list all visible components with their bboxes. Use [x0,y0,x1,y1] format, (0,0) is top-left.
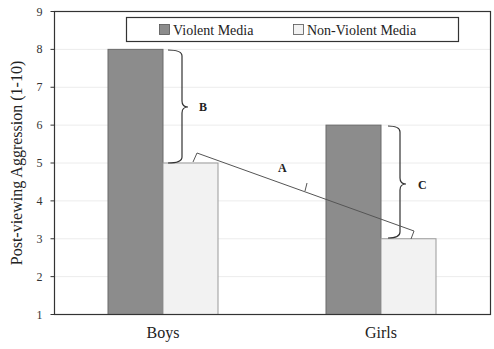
legend-swatch-nonviolent [294,25,304,35]
legend-swatch-violent [160,25,170,35]
y-tick-label: 9 [37,5,43,19]
x-category-label-boys: Boys [147,324,180,342]
y-tick-label: 8 [37,42,43,56]
x-category-label-girls: Girls [365,324,397,341]
y-tick-label: 1 [37,308,43,322]
bar-boys-nonviolent [163,163,218,315]
bar-boys-violent [108,49,163,314]
annotation-a-label: A [278,161,287,175]
annotation-b-label: B [199,100,207,114]
y-axis-ticks: 123456789 [37,5,55,322]
bar-chart: 123456789 Post-viewing Aggression (1-10)… [0,0,494,349]
y-axis-title: Post-viewing Aggression (1-10) [8,61,26,265]
bar-girls-violent [326,125,381,314]
y-tick-label: 4 [37,194,43,208]
y-tick-label: 7 [37,80,43,94]
y-tick-label: 6 [37,118,43,132]
y-tick-label: 2 [37,270,43,284]
bar-girls-nonviolent [381,239,436,315]
y-tick-label: 3 [37,232,43,246]
annotation-b-bracket [168,50,188,163]
annotation-c-label: C [418,178,427,192]
annotation-c-bracket [388,126,406,238]
legend-label-violent: Violent Media [173,23,254,38]
legend-label-nonviolent: Non-Violent Media [307,23,417,38]
legend: Violent Media Non-Violent Media [127,18,459,42]
bars [108,49,436,314]
y-tick-label: 5 [37,156,43,170]
